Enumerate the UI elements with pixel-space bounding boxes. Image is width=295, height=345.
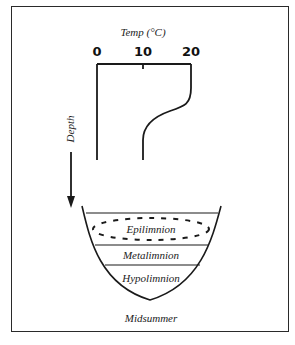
- layer-label-hypolimnion: Hypolimnion: [121, 272, 180, 284]
- depth-arrow-icon: [67, 152, 75, 208]
- layer-label-metalimnion: Metalimnion: [122, 249, 180, 261]
- temperature-axes: [97, 64, 191, 160]
- figure-caption: Midsummer: [124, 312, 178, 324]
- lake-stratification-diagram: Temp (°C) 0 10 20 Depth Epilimnion Metal…: [0, 0, 295, 345]
- tick-label-0: 0: [92, 44, 101, 59]
- temperature-profile-curve: [143, 64, 191, 160]
- tick-label-10: 10: [134, 44, 152, 59]
- tick-label-20: 20: [182, 44, 200, 59]
- layer-label-epilimnion: Epilimnion: [126, 223, 176, 235]
- depth-axis-label: Depth: [64, 115, 76, 143]
- temp-axis-title: Temp (°C): [120, 26, 166, 39]
